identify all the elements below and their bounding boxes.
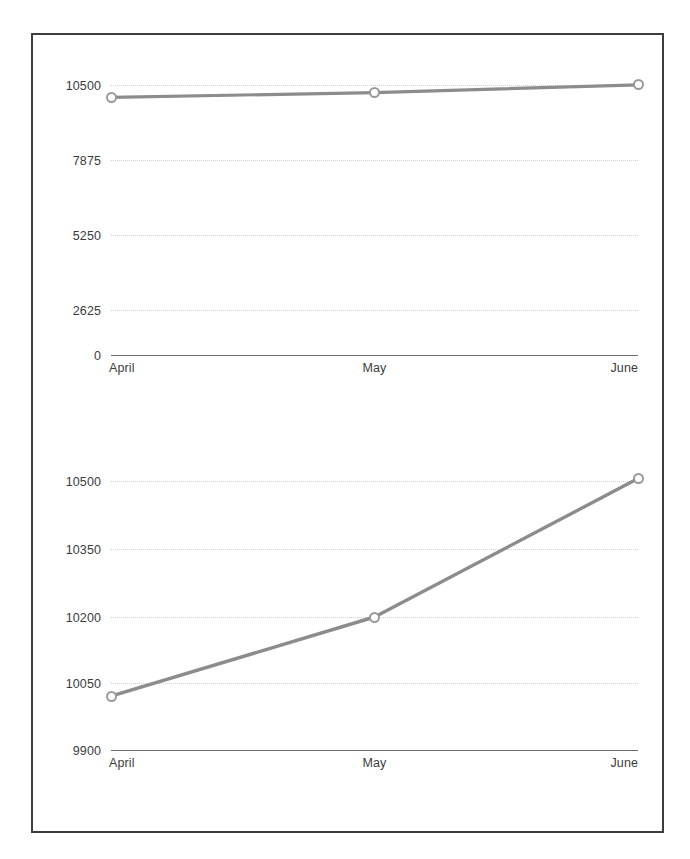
document-page-frame: 10500 7875 5250 2625 0 April May June — [31, 33, 664, 833]
plot-area-top: 10500 7875 5250 2625 0 April May June — [111, 43, 638, 403]
y-tick-label-bottom-4: 9900 — [73, 744, 101, 758]
data-point-bottom-june[interactable] — [633, 473, 644, 484]
line-chart-zoomed-scale: 10500 10350 10200 10050 9900 April May J… — [33, 440, 666, 810]
y-tick-label-bottom-2: 10200 — [66, 611, 101, 625]
data-point-bottom-april[interactable] — [106, 691, 117, 702]
y-tick-label-top-2: 5250 — [73, 229, 101, 243]
y-tick-label-top-4: 0 — [94, 349, 101, 363]
y-tick-label-top-1: 7875 — [73, 154, 101, 168]
data-point-bottom-may[interactable] — [369, 612, 380, 623]
y-tick-label-top-0: 10500 — [66, 79, 101, 93]
plot-area-bottom: 10500 10350 10200 10050 9900 April May J… — [111, 440, 638, 810]
data-point-top-june[interactable] — [633, 79, 644, 90]
y-tick-label-top-3: 2625 — [73, 304, 101, 318]
data-point-top-april[interactable] — [106, 92, 117, 103]
y-tick-label-bottom-0: 10500 — [66, 475, 101, 489]
series-line-bottom — [111, 440, 638, 810]
y-tick-label-bottom-1: 10350 — [66, 543, 101, 557]
y-tick-label-bottom-3: 10050 — [66, 677, 101, 691]
line-chart-full-scale: 10500 7875 5250 2625 0 April May June — [33, 43, 666, 403]
